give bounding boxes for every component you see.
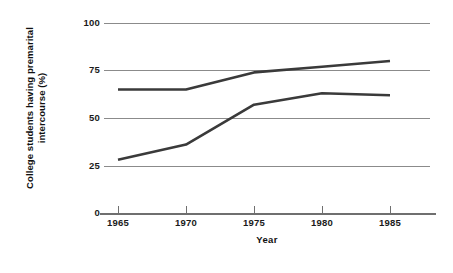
- x-tick-1980: 1980: [297, 217, 347, 228]
- x-axis-line: [100, 213, 436, 215]
- y-axis-title-line-1: College students having premarital: [24, 27, 35, 189]
- y-axis-title: College students having premarital inter…: [24, 8, 48, 208]
- y-tick-75: 75: [60, 64, 100, 75]
- x-tickmark-1980: [322, 206, 323, 213]
- x-axis-title: Year: [104, 234, 430, 245]
- x-tick-1975: 1975: [229, 217, 279, 228]
- y-axis-tick-labels: 100 75 50 25 0: [54, 0, 100, 273]
- chart-figure: College students having premarital inter…: [0, 0, 453, 273]
- y-tick-50: 50: [60, 112, 100, 123]
- y-axis-title-line-2: intercourse (%): [36, 73, 47, 144]
- x-tick-1985: 1985: [365, 217, 415, 228]
- x-tick-1970: 1970: [161, 217, 211, 228]
- gridline-50: [104, 118, 430, 119]
- gridline-75: [104, 70, 430, 71]
- x-tickmark-1965: [118, 206, 119, 213]
- y-tick-25: 25: [60, 160, 100, 171]
- x-tickmark-1985: [390, 206, 391, 213]
- gridline-100: [104, 23, 430, 24]
- x-tick-1965: 1965: [93, 217, 143, 228]
- x-tickmark-1975: [254, 206, 255, 213]
- y-tick-100: 100: [60, 17, 100, 28]
- gridline-25: [104, 166, 430, 167]
- plot-area: [104, 23, 430, 213]
- x-tickmark-1970: [186, 206, 187, 213]
